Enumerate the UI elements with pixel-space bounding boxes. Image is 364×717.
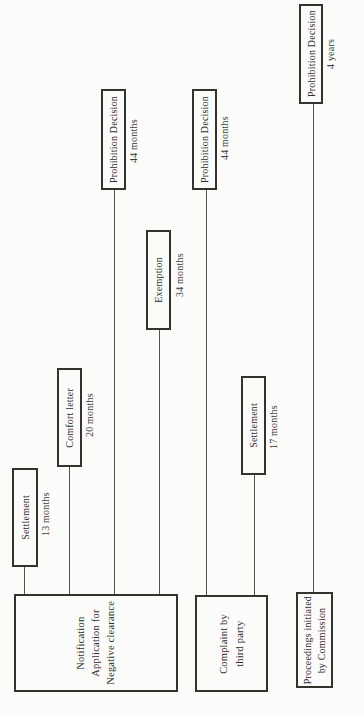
duration-label-exemption: 34 months (174, 249, 185, 301)
outcome-box-prohibition-decision-44-b: Prohibition Decision (192, 89, 217, 190)
outcome-box-comfort-letter: Comfort letter (57, 368, 82, 467)
outcome-label: Exemption (152, 257, 165, 303)
outcome-label: Prohibition Decision (305, 10, 318, 97)
outcome-label: Settlement (247, 403, 260, 448)
outcome-label: Prohibition Decision (198, 96, 211, 183)
connector-line-settlement-13 (24, 566, 25, 594)
outcome-box-exemption: Exemption (146, 230, 171, 330)
connector-line-settlement-17 (254, 474, 255, 595)
origin-label: Notification Application for Negative cl… (73, 601, 119, 685)
duration-label-prohibition-decision-44-b: 44 months (219, 113, 230, 163)
connector-line-prohibition-decision-4-years (313, 103, 314, 592)
connector-line-prohibition-decision-44-a (114, 189, 115, 594)
origin-box-complaint: Complaint by third party (195, 595, 268, 692)
connector-line-exemption (159, 329, 160, 594)
outcome-label: Prohibition Decision (107, 96, 120, 183)
timeline-diagram: Settlement 13 months Comfort letter 20 m… (0, 0, 364, 717)
outcome-label: Settlement (19, 495, 32, 540)
outcome-box-settlement-13: Settlement (12, 468, 38, 567)
duration-label-prohibition-decision-44-a: 44 months (128, 116, 139, 166)
outcome-label: Comfort letter (63, 388, 76, 448)
outcome-box-prohibition-decision-44-a: Prohibition Decision (101, 89, 126, 190)
origin-label: Complaint by third party (216, 614, 248, 674)
outcome-box-prohibition-decision-4-years: Prohibition Decision (299, 4, 323, 104)
origin-box-proceedings: Proceedings initiated by Commission (296, 592, 333, 688)
origin-box-notification: Notification Application for Negative cl… (14, 594, 178, 692)
outcome-box-settlement-17: Settlement (241, 376, 266, 475)
connector-line-comfort-letter (69, 466, 70, 594)
duration-label-settlement-17: 17 months (268, 401, 279, 453)
origin-label: Proceedings initiated by Commission (301, 596, 329, 684)
duration-label-settlement-13: 13 months (40, 488, 51, 540)
duration-label-prohibition-decision-4-years: 4 years (325, 34, 336, 74)
duration-label-comfort-letter: 20 months (84, 389, 95, 441)
connector-line-prohibition-decision-44-b (206, 189, 207, 595)
